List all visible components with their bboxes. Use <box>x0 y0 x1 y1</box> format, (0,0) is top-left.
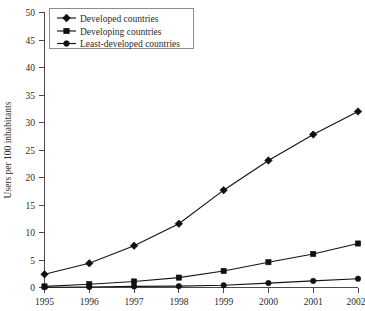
data-point <box>42 284 47 289</box>
data-point <box>354 108 362 116</box>
y-axis-tick-labels: 0 5 10 15 20 25 30 35 40 45 50 <box>26 8 36 293</box>
x-tick-label: 1995 <box>35 297 54 307</box>
legend-marker-icon <box>64 41 70 47</box>
data-point <box>221 283 226 288</box>
y-tick-label: 30 <box>26 118 36 128</box>
legend-item-label: Developing countries <box>80 27 162 37</box>
legend-marker-icon <box>64 28 69 33</box>
chart-container: 0 5 10 15 20 25 30 35 40 45 50 Users per… <box>0 0 365 311</box>
legend: Developed countries Developing countries… <box>50 9 194 50</box>
data-point <box>266 260 271 265</box>
x-tick-label: 1996 <box>80 297 99 307</box>
x-tick-label: 2000 <box>259 297 278 307</box>
y-tick-label: 50 <box>26 8 36 18</box>
y-tick-label: 5 <box>30 256 35 266</box>
y-tick-label: 15 <box>26 201 36 211</box>
data-point <box>265 157 273 165</box>
x-tick-label: 1997 <box>125 297 144 307</box>
data-point <box>311 251 316 256</box>
x-axis-tick-labels: 1995 1996 1997 1998 1999 2000 2001 2002 <box>35 297 365 307</box>
y-tick-label: 25 <box>26 146 36 156</box>
series-layer <box>41 108 362 290</box>
data-point <box>86 260 94 268</box>
data-point <box>131 284 136 289</box>
line-chart: 0 5 10 15 20 25 30 35 40 45 50 Users per… <box>0 0 365 311</box>
y-tick-label: 35 <box>26 91 36 101</box>
data-point <box>266 280 271 285</box>
data-point <box>130 242 138 250</box>
legend-item-label: Developed countries <box>80 14 159 24</box>
data-point <box>310 278 315 283</box>
x-tick-label: 1998 <box>169 297 188 307</box>
data-point <box>176 275 181 280</box>
x-tick-label: 2002 <box>347 297 365 307</box>
x-tick-label: 2001 <box>304 297 323 307</box>
data-point <box>355 241 360 246</box>
data-point <box>309 131 317 139</box>
data-point <box>131 279 136 284</box>
x-tick-label: 1999 <box>214 297 233 307</box>
y-axis-title: Users per 100 inhabitants <box>3 101 13 198</box>
y-tick-label: 10 <box>26 228 36 238</box>
y-tick-label: 20 <box>26 173 36 183</box>
y-tick-label: 45 <box>26 36 36 46</box>
data-point <box>176 283 181 288</box>
y-tick-label: 0 <box>30 283 35 293</box>
data-point <box>41 271 49 279</box>
y-tick-label: 40 <box>26 63 36 73</box>
data-point <box>355 276 360 281</box>
data-point <box>221 268 226 273</box>
y-axis-ticks <box>39 13 45 288</box>
legend-item-label: Least-developed countries <box>80 39 180 49</box>
data-point <box>87 284 92 289</box>
